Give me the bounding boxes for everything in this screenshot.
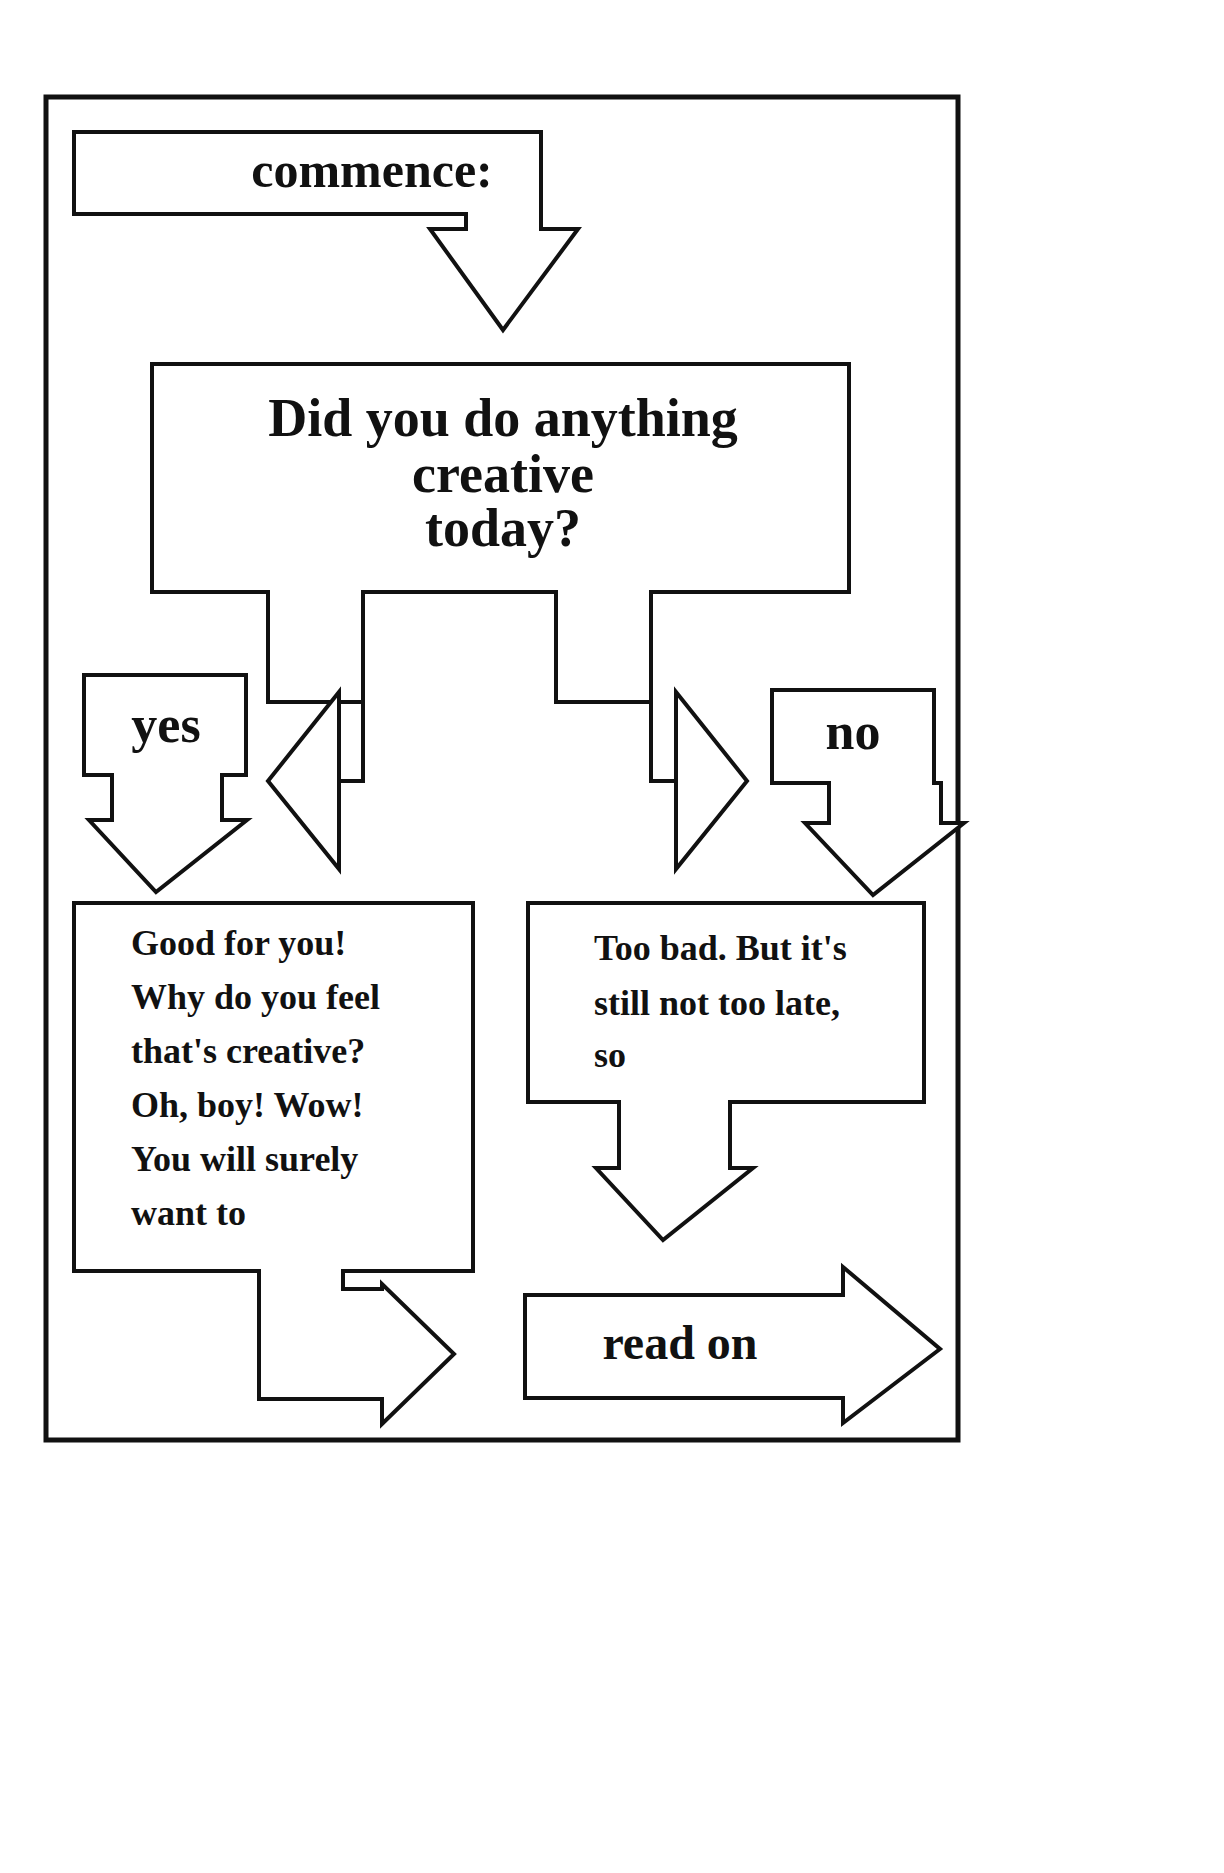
no-label: no [826, 703, 881, 760]
good-for-you-line-6: want to [131, 1193, 246, 1233]
read-on-label: read on [602, 1316, 757, 1369]
branch-right-arrow [651, 664, 747, 869]
too-bad-line-1: Too bad. But it's [594, 928, 847, 968]
flowchart-page: commence: Did you do anything creative t… [0, 0, 1224, 1873]
too-bad-line-2: still not too late, [594, 983, 840, 1023]
question-line-1: Did you do anything [268, 388, 738, 448]
good-for-you-line-1: Good for you! [131, 923, 346, 963]
good-for-you-line-5: You will surely [131, 1139, 358, 1179]
good-for-you-line-2: Why do you feel [131, 977, 380, 1017]
yes-label: yes [131, 696, 200, 753]
flowchart-canvas: commence: Did you do anything creative t… [0, 0, 1224, 1873]
question-line-2: creative [412, 444, 594, 504]
good-for-you-line-4: Oh, boy! Wow! [131, 1085, 363, 1125]
commence-label: commence: [251, 142, 493, 198]
too-bad-line-3: so [594, 1035, 626, 1075]
question-line-3: today? [425, 498, 581, 558]
good-for-you-line-3: that's creative? [131, 1031, 365, 1071]
